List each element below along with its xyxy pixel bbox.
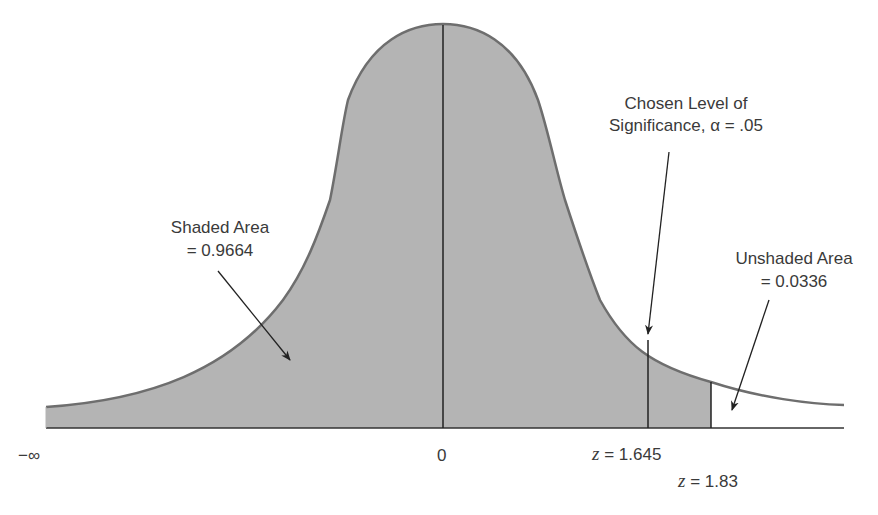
unshaded-area-label: Unshaded Area = 0.0336	[714, 249, 874, 292]
alpha-label-line2: Significance, α = .05	[586, 116, 786, 136]
z-symbol: z	[678, 470, 685, 491]
shaded-area-label-line2: = 0.9664	[150, 241, 290, 261]
unshaded-area-label-line2: = 0.0336	[714, 272, 874, 292]
alpha-label: Chosen Level of Significance, α = .05	[586, 94, 786, 136]
z-symbol: z	[592, 443, 599, 464]
observed-z-value: = 1.83	[690, 472, 738, 491]
critical-z-value: = 1.645	[604, 445, 661, 464]
observed-z-label: z = 1.83	[678, 471, 738, 492]
alpha-label-line1: Chosen Level of	[586, 94, 786, 114]
critical-z-label: z = 1.645	[592, 444, 661, 465]
shaded-area-label: Shaded Area = 0.9664	[150, 218, 290, 261]
neg-infinity-label: −∞	[18, 446, 40, 466]
normal-distribution-diagram: Chosen Level of Significance, α = .05 Sh…	[0, 0, 878, 515]
zero-label: 0	[437, 446, 446, 466]
unshaded-area-label-line1: Unshaded Area	[714, 249, 874, 269]
alpha-arrow	[648, 152, 669, 334]
shaded-area-label-line1: Shaded Area	[150, 218, 290, 238]
